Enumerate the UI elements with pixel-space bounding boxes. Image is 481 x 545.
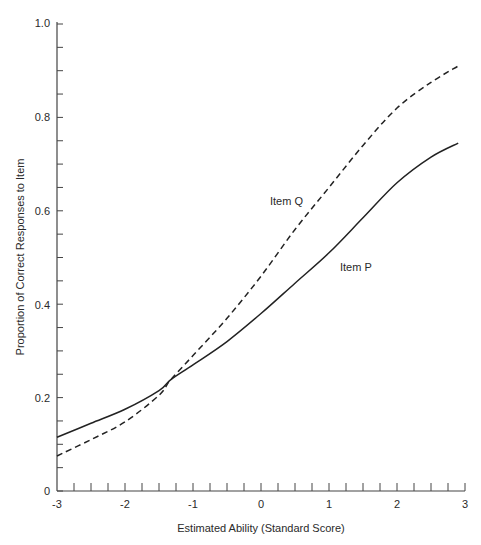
y-tick-label: 0.8	[35, 111, 50, 123]
y-axis-ticks	[57, 24, 63, 491]
y-tick-label: 0	[44, 485, 50, 497]
irt-chart: 0 0.2 0.4 0.6 0.8 1.0 -3 -2 -1 0 1 2 3 E…	[0, 0, 481, 545]
x-tick-label: -3	[52, 498, 62, 510]
x-tick-label: 2	[394, 498, 400, 510]
item-q-label: Item Q	[270, 195, 303, 207]
y-tick-label: 0.4	[35, 299, 50, 311]
y-axis-title: Proportion of Correct Responses to Item	[14, 159, 26, 356]
x-axis-ticks	[74, 483, 465, 491]
x-tick-label: -2	[120, 498, 130, 510]
x-tick-label: -1	[188, 498, 198, 510]
x-tick-label: 1	[326, 498, 332, 510]
y-tick-label: 1.0	[35, 17, 50, 29]
y-tick-label: 0.6	[35, 205, 50, 217]
x-tick-label: 3	[462, 498, 468, 510]
item-q-curve	[57, 66, 458, 456]
item-p-curve	[57, 143, 458, 437]
x-tick-label: 0	[258, 498, 264, 510]
x-axis-title: Estimated Ability (Standard Score)	[177, 522, 345, 534]
item-p-label: Item P	[340, 261, 372, 273]
y-tick-label: 0.2	[35, 392, 50, 404]
